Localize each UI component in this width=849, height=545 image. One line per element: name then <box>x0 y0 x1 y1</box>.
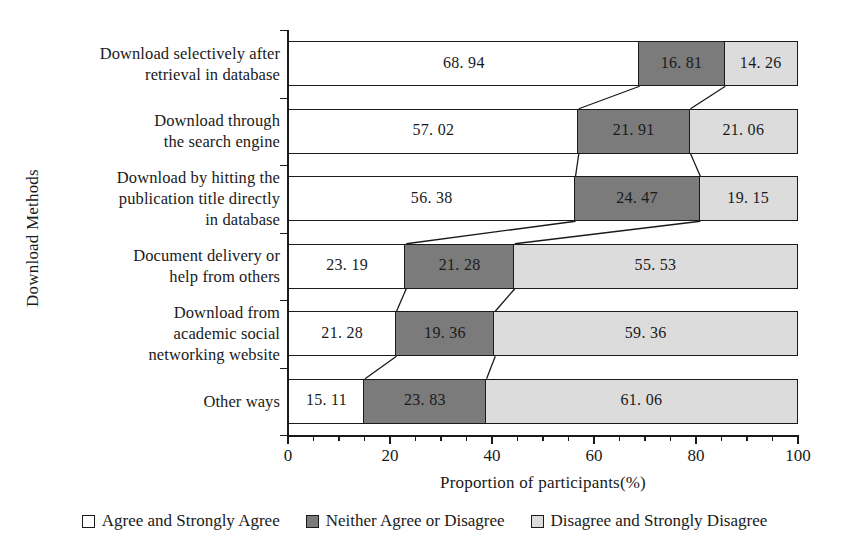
x-axis-minor-tick <box>670 435 671 441</box>
bar-segment: 21. 06 <box>689 109 798 154</box>
x-axis-tick-label: 100 <box>768 446 828 466</box>
x-axis-minor-tick <box>721 435 722 441</box>
white-square-icon <box>82 515 95 528</box>
bar-segment: 59. 36 <box>493 311 798 356</box>
category-label: Download throughthe search engine <box>40 110 280 152</box>
x-axis-major-tick <box>593 435 594 444</box>
bar-segment: 23. 83 <box>363 379 486 424</box>
connector-line <box>579 86 640 109</box>
bar-value-label: 14. 26 <box>740 54 782 72</box>
category-label: Document delivery orhelp from others <box>40 245 280 287</box>
category-label: Download fromacademic socialnetworking w… <box>40 302 280 365</box>
connector-line <box>397 289 407 312</box>
connector-line <box>691 154 701 177</box>
category-label-line: academic social <box>40 323 280 344</box>
bar-segment: 21. 28 <box>404 244 514 289</box>
category-label-line: Other ways <box>40 391 280 412</box>
plot-area: 68. 9416. 8114. 2657. 0221. 9121. 0656. … <box>288 30 798 435</box>
legend-label: Agree and Strongly Agree <box>102 511 280 531</box>
y-axis-tick <box>280 300 288 301</box>
bar-value-label: 61. 06 <box>620 391 662 409</box>
stacked-bar-chart: Download Methods Download selectively af… <box>0 0 849 545</box>
bar-value-label: 24. 47 <box>616 189 658 207</box>
bar-value-label: 19. 36 <box>424 324 466 342</box>
category-label-line: the search engine <box>40 131 280 152</box>
segment-connector-lines <box>288 30 798 435</box>
x-axis-minor-tick <box>568 435 569 441</box>
y-axis-tick <box>280 368 288 369</box>
bar-segment: 21. 91 <box>577 109 691 154</box>
category-label: Other ways <box>40 391 280 412</box>
bar-value-label: 55. 53 <box>635 256 677 274</box>
y-axis-tick <box>280 233 288 234</box>
bar-value-label: 57. 02 <box>412 121 454 139</box>
legend-item[interactable]: Disagree and Strongly Disagree <box>531 511 768 531</box>
connector-line <box>691 86 726 109</box>
legend-label: Disagree and Strongly Disagree <box>551 511 768 531</box>
x-axis-tick-label: 80 <box>666 446 726 466</box>
x-axis-major-tick <box>695 435 696 444</box>
connector-line <box>487 356 496 379</box>
legend-item[interactable]: Neither Agree or Disagree <box>306 511 505 531</box>
connector-line <box>406 221 575 244</box>
category-label-line: Document delivery or <box>40 245 280 266</box>
x-axis-tick-label: 20 <box>360 446 420 466</box>
x-axis-minor-tick <box>772 435 773 441</box>
category-label-line: networking website <box>40 344 280 365</box>
bar-segment: 19. 36 <box>395 311 496 356</box>
x-axis-minor-tick <box>644 435 645 441</box>
y-axis-tick <box>280 30 288 31</box>
bar-row: 15. 1123. 8361. 06 <box>288 379 798 424</box>
bar-row: 23. 1921. 2855. 53 <box>288 244 798 289</box>
x-axis-minor-tick <box>746 435 747 441</box>
x-axis-minor-tick <box>338 435 339 441</box>
bar-segment: 56. 38 <box>288 176 576 221</box>
bar-value-label: 19. 15 <box>727 189 769 207</box>
bar-segment: 57. 02 <box>288 109 579 154</box>
legend-item[interactable]: Agree and Strongly Agree <box>82 511 280 531</box>
y-axis-tick <box>280 165 288 166</box>
chart-legend: Agree and Strongly AgreeNeither Agree or… <box>0 511 849 531</box>
category-label-line: Download from <box>40 302 280 323</box>
bar-row: 68. 9416. 8114. 26 <box>288 41 798 86</box>
connector-line <box>365 356 396 379</box>
bar-row: 21. 2819. 3659. 36 <box>288 311 798 356</box>
bar-value-label: 21. 28 <box>439 256 481 274</box>
category-label-line: in database <box>40 209 280 230</box>
category-label-line: Download through <box>40 110 280 131</box>
bar-segment: 68. 94 <box>288 41 640 86</box>
x-axis-minor-tick <box>619 435 620 441</box>
x-axis-major-tick <box>797 435 798 444</box>
bar-value-label: 23. 19 <box>326 256 368 274</box>
bar-value-label: 21. 91 <box>613 121 655 139</box>
bar-segment: 21. 28 <box>288 311 397 356</box>
x-axis-minor-tick <box>364 435 365 441</box>
bar-value-label: 56. 38 <box>411 189 453 207</box>
bar-value-label: 21. 28 <box>321 324 363 342</box>
legend-label: Neither Agree or Disagree <box>326 511 505 531</box>
category-label-line: Download selectively after <box>40 43 280 64</box>
bar-segment: 16. 81 <box>638 41 726 86</box>
bar-value-label: 23. 83 <box>404 391 446 409</box>
light-gray-square-icon <box>531 515 544 528</box>
x-axis-major-tick <box>491 435 492 444</box>
x-axis-title: Proportion of participants(%) <box>288 473 798 493</box>
x-axis-minor-tick <box>440 435 441 441</box>
bar-segment: 15. 11 <box>288 379 365 424</box>
category-label-line: help from others <box>40 266 280 287</box>
x-axis-tick-label: 40 <box>462 446 522 466</box>
category-label: Download selectively afterretrieval in d… <box>40 43 280 85</box>
x-axis-minor-tick <box>313 435 314 441</box>
bar-segment: 24. 47 <box>574 176 701 221</box>
x-axis-minor-tick <box>542 435 543 441</box>
x-axis-major-tick <box>389 435 390 444</box>
category-label-line: Download by hitting the <box>40 167 280 188</box>
x-axis-minor-tick <box>466 435 467 441</box>
bar-segment: 14. 26 <box>724 41 799 86</box>
bar-segment: 23. 19 <box>288 244 406 289</box>
bar-value-label: 15. 11 <box>306 391 347 409</box>
bar-value-label: 59. 36 <box>625 324 667 342</box>
bar-value-label: 16. 81 <box>661 54 703 72</box>
category-label-line: publication title directly <box>40 188 280 209</box>
x-axis-tick-label: 60 <box>564 446 624 466</box>
